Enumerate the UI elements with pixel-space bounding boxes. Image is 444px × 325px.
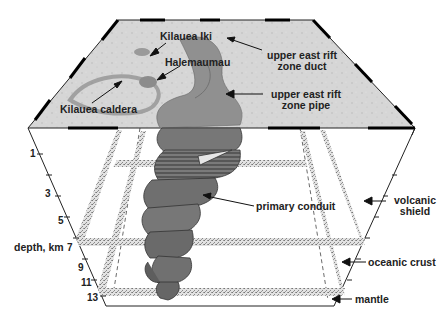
depth-tick-13: 13: [87, 292, 98, 303]
label-kilauea-iki: Kilauea Iki: [160, 31, 212, 42]
depth-tick-5: 5: [58, 215, 64, 226]
depth-tick-9: 9: [78, 262, 84, 273]
label-line-2: zone pipe: [266, 100, 346, 111]
primary-conduit-shape: [142, 128, 242, 300]
diagram-canvas: [0, 0, 444, 325]
label-line-2: shield: [390, 206, 440, 217]
label-upper-east-rift-zone-pipe: upper east rift zone pipe: [266, 89, 346, 111]
depth-axis: [37, 154, 106, 296]
label-volcanic-shield: volcanic shield: [390, 195, 440, 217]
depth-tick-3: 3: [45, 188, 51, 199]
label-primary-conduit: primary conduit: [256, 201, 335, 212]
label-mantle: mantle: [355, 294, 389, 305]
label-halemaumau: Halemaumau: [165, 57, 230, 68]
label-upper-east-rift-zone-duct: upper east rift zone duct: [262, 50, 342, 72]
depth-axis-label: depth, km: [14, 242, 64, 253]
label-kilauea-caldera: Kilauea caldera: [60, 104, 137, 115]
depth-tick-11: 11: [81, 277, 92, 288]
depth-tick-7: 7: [67, 242, 73, 253]
depth-tick-1: 1: [30, 148, 36, 159]
label-oceanic-crust: oceanic crust: [368, 257, 436, 268]
label-line-2: zone duct: [262, 61, 342, 72]
